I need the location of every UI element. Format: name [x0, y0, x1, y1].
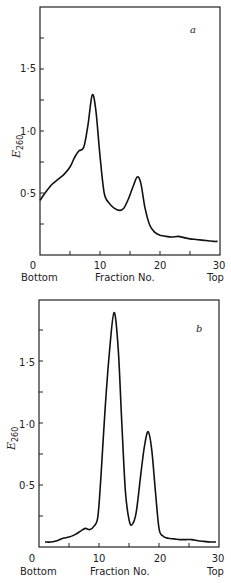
xlabel-top-b: Top — [206, 566, 224, 577]
xtick-label-0-b: 0 — [29, 553, 35, 564]
ytick-label-0-5-a: 0·5 — [20, 188, 36, 199]
chart-panel-b: b 1·5 1·0 0·5 E 260 0 10 20 30 Bottom Fr… — [5, 300, 224, 577]
data-line-a — [40, 95, 218, 242]
panel-letter-b: b — [196, 323, 202, 334]
xlabel-top-a: Top — [206, 272, 224, 283]
xtick-label-10-b: 10 — [93, 553, 106, 564]
xtick-label-20-b: 20 — [154, 553, 167, 564]
x-ticks-a — [70, 251, 190, 255]
data-line-b — [45, 313, 216, 543]
ytick-label-1-5-a: 1·5 — [20, 63, 36, 74]
xtick-label-30-a: 30 — [213, 260, 226, 271]
plot-frame-a — [40, 7, 220, 255]
chart-panel-a: a 1·5 1·0 0·5 E 260 0 10 20 30 Bottom Fr… — [10, 7, 225, 283]
ylabel-sub-a: 260 — [16, 135, 25, 150]
xlabel-fraction-b: Fraction No. — [90, 566, 150, 577]
xtick-label-0-a: 0 — [30, 260, 36, 271]
ytick-label-0-5-b: 0·5 — [19, 480, 35, 491]
y-axis-label-b: E 260 — [5, 427, 20, 451]
xtick-label-10-a: 10 — [94, 260, 107, 271]
xtick-label-30-b: 30 — [212, 553, 225, 564]
ylabel-main-b: E — [5, 442, 18, 451]
y-axis-label-a: E 260 — [10, 135, 25, 159]
ytick-label-1-0-b: 1·0 — [19, 419, 35, 430]
xlabel-bottom-a: Bottom — [21, 272, 58, 283]
xlabel-bottom-b: Bottom — [20, 566, 57, 577]
panel-letter-a: a — [190, 24, 196, 35]
ylabel-main-a: E — [10, 150, 23, 159]
plot-frame-b — [39, 300, 219, 547]
figure: a 1·5 1·0 0·5 E 260 0 10 20 30 Bottom Fr… — [0, 0, 231, 583]
xlabel-fraction-a: Fraction No. — [95, 272, 155, 283]
ytick-label-1-5-b: 1·5 — [19, 357, 35, 368]
xtick-label-20-a: 20 — [154, 260, 167, 271]
ylabel-sub-b: 260 — [11, 427, 20, 442]
